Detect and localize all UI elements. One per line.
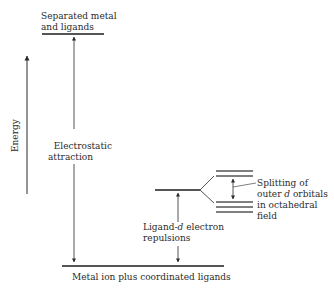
ligand-text-1: Ligand- <box>143 222 178 232</box>
energy-axis-label: Energy <box>10 119 21 152</box>
split-connector-lower <box>200 190 214 203</box>
label-separated-metal-and-ligands: Separated metal and ligands <box>41 11 117 33</box>
electrostatic-attraction-text: Electrostatic attraction <box>48 141 112 162</box>
split-connector-upper <box>200 176 214 190</box>
label-splitting-of-outer-d-orbitals: Splitting of outer d orbitals in octahed… <box>257 178 328 222</box>
label-ligand-d-electron-repulsions: Ligand-d electron repulsions <box>143 222 224 244</box>
splitting-leader-line <box>233 183 256 187</box>
label-electrostatic-attraction: Electrostatic attraction <box>48 129 112 164</box>
label-metal-ion-plus-coordinated-ligands: Metal ion plus coordinated ligands <box>72 272 231 283</box>
